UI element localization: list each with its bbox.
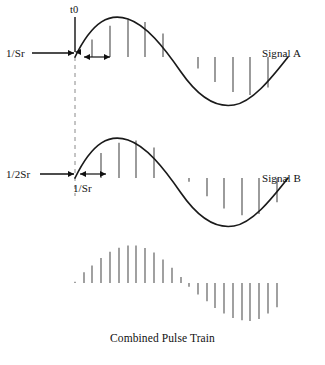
combined-pulses [75, 245, 277, 321]
figure-caption: Combined Pulse Train [0, 332, 325, 344]
label-t0: t0 [70, 4, 78, 15]
label-inverse-sr-signal-a: 1/Sr [6, 47, 25, 59]
signal-a-pulses [92, 19, 268, 95]
label-inverse-sr-signal-b: 1/Sr [73, 182, 92, 194]
signal-b-curve [75, 138, 288, 226]
signal-a-group [75, 17, 288, 105]
signal-a-curve [75, 17, 288, 105]
label-signal-b: Signal B [262, 172, 301, 184]
signal-b-group [75, 138, 288, 226]
label-signal-a: Signal A [262, 47, 301, 59]
figure-canvas: t0 1/Sr 1/2Sr 1/Sr Signal A Signal B Com… [0, 0, 325, 365]
label-inverse-2sr-signal-b: 1/2Sr [6, 168, 30, 180]
combined-pulse-train-group [75, 245, 277, 321]
